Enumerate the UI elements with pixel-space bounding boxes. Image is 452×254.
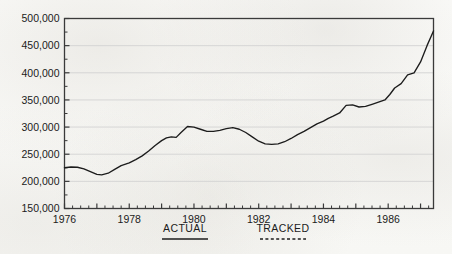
x-tick-label: 1984	[312, 213, 336, 225]
x-tick-label: 1986	[377, 213, 401, 225]
y-tick-label: 450,000	[22, 39, 60, 51]
plot-frame	[65, 19, 434, 209]
y-axis: 150,000200,000250,000300,000350,000400,0…	[22, 12, 70, 214]
chart-canvas: 150,000200,000250,000300,000350,000400,0…	[0, 0, 452, 254]
legend-label-actual: ACTUAL	[163, 222, 207, 234]
chart-legend: ACTUALTRACKED	[162, 222, 309, 239]
y-tick-label: 350,000	[22, 94, 60, 106]
x-tick-label: 1978	[118, 213, 142, 225]
legend-label-tracked: TRACKED	[257, 222, 310, 234]
gridlines	[65, 46, 434, 182]
y-tick-label: 500,000	[22, 12, 60, 24]
x-tick-label: 1976	[53, 213, 77, 225]
series-line-actual	[65, 31, 434, 175]
y-tick-label: 300,000	[22, 121, 60, 133]
y-tick-label: 400,000	[22, 67, 60, 79]
y-tick-label: 200,000	[22, 175, 60, 187]
x-axis: 197619781980198219841986	[53, 204, 429, 225]
y-tick-label: 250,000	[22, 148, 60, 160]
data-series-group	[65, 31, 434, 175]
line-chart: 150,000200,000250,000300,000350,000400,0…	[0, 0, 452, 254]
